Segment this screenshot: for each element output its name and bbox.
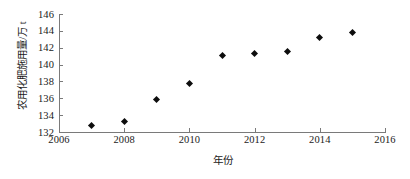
x-axis-line bbox=[59, 132, 386, 133]
x-axis-tick-label: 2008 bbox=[102, 134, 146, 146]
data-point bbox=[316, 34, 323, 41]
data-point bbox=[349, 29, 356, 36]
chart-figure: 132134136138140142144146 200620082010201… bbox=[0, 0, 410, 179]
data-point bbox=[251, 50, 258, 57]
x-axis-tick-label: 2010 bbox=[167, 134, 211, 146]
data-point bbox=[186, 80, 193, 87]
data-point bbox=[88, 122, 95, 129]
x-axis-title: 年份 bbox=[198, 152, 248, 167]
x-axis-tick-label: 2014 bbox=[298, 134, 342, 146]
x-axis-tick-label: 2006 bbox=[37, 134, 81, 146]
data-point bbox=[284, 48, 291, 55]
x-axis-tick-label: 2012 bbox=[233, 134, 277, 146]
data-point bbox=[153, 96, 160, 103]
plot-area bbox=[59, 14, 385, 132]
data-point bbox=[121, 118, 128, 125]
y-axis-title: 农用化肥施用量/万 t bbox=[14, 7, 29, 125]
x-axis-tick bbox=[385, 128, 386, 133]
x-axis-tick-label: 2016 bbox=[363, 134, 407, 146]
data-point bbox=[218, 52, 225, 59]
